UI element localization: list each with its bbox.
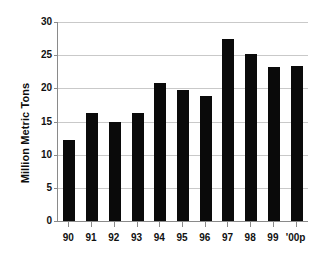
bar bbox=[86, 113, 98, 221]
x-tick-label: 99 bbox=[267, 233, 278, 243]
x-tick-label: 98 bbox=[245, 233, 256, 243]
x-tick-mark bbox=[227, 222, 228, 227]
y-tick-mark bbox=[54, 55, 58, 56]
gridline bbox=[58, 22, 308, 23]
y-axis-tick-labels: 051015202530 bbox=[8, 22, 52, 221]
plot-area bbox=[57, 22, 308, 222]
bar bbox=[222, 39, 234, 221]
x-tick-label: 90 bbox=[63, 233, 74, 243]
x-tick-mark bbox=[159, 222, 160, 227]
x-tick-label: 93 bbox=[131, 233, 142, 243]
x-tick-label: 95 bbox=[176, 233, 187, 243]
x-tick-mark bbox=[273, 222, 274, 227]
x-tick-label: 91 bbox=[86, 233, 97, 243]
x-tick-mark bbox=[250, 222, 251, 227]
bar bbox=[245, 54, 257, 221]
y-tick-label: 15 bbox=[12, 117, 52, 127]
x-tick-label: 92 bbox=[108, 233, 119, 243]
y-tick-mark bbox=[54, 122, 58, 123]
y-tick-label: 30 bbox=[12, 17, 52, 27]
y-tick-mark bbox=[54, 188, 58, 189]
y-tick-mark bbox=[54, 22, 58, 23]
x-tick-label: 96 bbox=[199, 233, 210, 243]
y-tick-mark bbox=[54, 88, 58, 89]
x-tick-label: 94 bbox=[154, 233, 165, 243]
y-tick-label: 0 bbox=[12, 216, 52, 226]
x-tick-mark bbox=[137, 222, 138, 227]
x-tick-mark bbox=[182, 222, 183, 227]
x-tick-label: '00p bbox=[286, 233, 306, 243]
y-tick-label: 25 bbox=[12, 50, 52, 60]
bar bbox=[177, 90, 189, 221]
x-tick-mark bbox=[205, 222, 206, 227]
x-tick-label: 97 bbox=[222, 233, 233, 243]
y-tick-label: 10 bbox=[12, 150, 52, 160]
y-tick-label: 20 bbox=[12, 83, 52, 93]
x-tick-mark bbox=[114, 222, 115, 227]
bar bbox=[200, 96, 212, 221]
gridline bbox=[58, 55, 308, 56]
bar bbox=[154, 83, 166, 221]
y-tick-mark bbox=[54, 155, 58, 156]
bar bbox=[291, 66, 303, 221]
x-tick-mark bbox=[68, 222, 69, 227]
bar bbox=[268, 67, 280, 221]
bar bbox=[63, 140, 75, 221]
bar bbox=[109, 122, 121, 221]
x-axis-tick-labels: 90919293949596979899'00p bbox=[57, 222, 307, 262]
y-tick-label: 5 bbox=[12, 183, 52, 193]
x-tick-mark bbox=[296, 222, 297, 227]
bar-chart: Million Metric Tons 051015202530 9091929… bbox=[0, 0, 316, 266]
bar bbox=[132, 113, 144, 221]
x-tick-mark bbox=[91, 222, 92, 227]
